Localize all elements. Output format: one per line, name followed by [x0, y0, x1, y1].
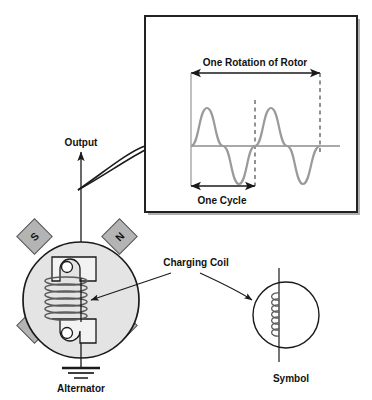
alternator-group: S N N S — [17, 192, 139, 394]
ground-symbol — [62, 368, 100, 378]
alternator-caption: Alternator — [57, 383, 105, 394]
output-arrow-group: Output — [65, 137, 98, 192]
symbol-group: Symbol — [253, 268, 319, 384]
output-label: Output — [65, 137, 98, 148]
output-connector-group — [78, 146, 145, 190]
magnet-top-left: S — [17, 219, 52, 254]
lower-pole-hole — [62, 328, 73, 339]
charging-coil-leader-right — [200, 273, 252, 300]
upper-pole-hole — [62, 262, 73, 273]
symbol-circle — [253, 282, 319, 348]
one-rotation-label: One Rotation of Rotor — [203, 57, 308, 68]
charging-coil-label: Charging Coil — [163, 257, 229, 268]
alternator-diagram-figure: One Rotation of Rotor One Cycle Output — [0, 0, 372, 400]
connector-curve-upper — [78, 146, 145, 190]
symbol-caption: Symbol — [273, 373, 309, 384]
diagram-canvas: One Rotation of Rotor One Cycle Output — [0, 0, 372, 400]
connector-curve-lower — [78, 150, 145, 190]
panel-border — [145, 16, 357, 212]
waveform-panel-group: One Rotation of Rotor One Cycle — [145, 16, 360, 215]
one-cycle-label: One Cycle — [198, 195, 247, 206]
